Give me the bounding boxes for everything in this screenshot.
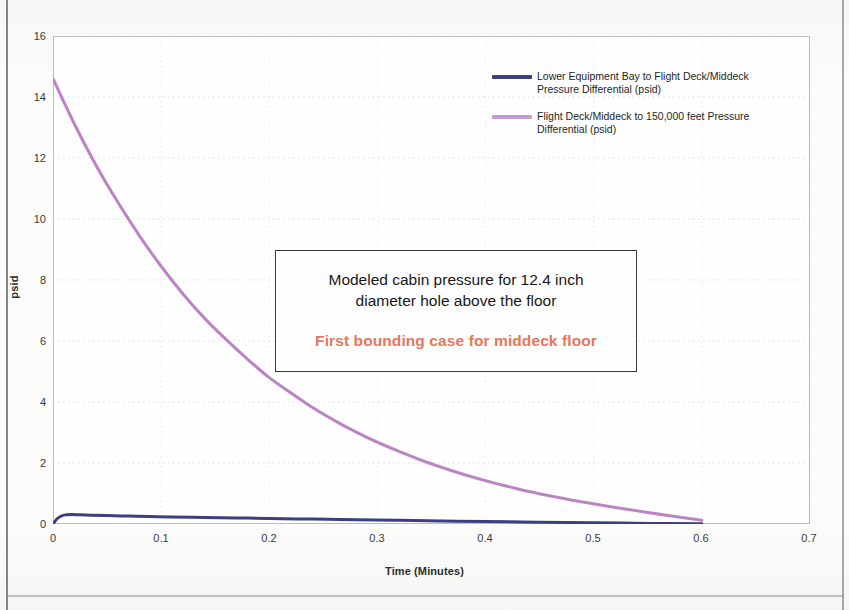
y-axis-title: psid <box>8 263 20 311</box>
x-axis-title: Time (Minutes) <box>0 565 849 577</box>
annotation-textbox: Modeled cabin pressure for 12.4 inch dia… <box>275 250 637 372</box>
legend-item-flightdeck-to-150000ft: Flight Deck/Middeck to 150,000 feet Pres… <box>492 110 792 136</box>
y-axis-tick-6: 6 <box>16 336 46 347</box>
y-axis-tick-12: 12 <box>16 153 46 164</box>
legend-swatch-navy <box>492 75 532 79</box>
x-axis-tick-0.3: 0.3 <box>357 533 397 544</box>
y-axis-tick-2: 2 <box>16 458 46 469</box>
legend-label-flightdeck-to-150000ft: Flight Deck/Middeck to 150,000 feet Pres… <box>537 110 787 136</box>
x-axis-tick-0.7: 0.7 <box>789 533 829 544</box>
series-line-lower-equipment-bay <box>53 515 702 524</box>
y-axis-tick-14: 14 <box>16 92 46 103</box>
x-axis-tick-0.6: 0.6 <box>681 533 721 544</box>
x-axis-tick-0.1: 0.1 <box>141 533 181 544</box>
scanned-page: 16 14 12 10 8 6 4 2 0 psid <box>0 0 849 610</box>
chart-legend: Lower Equipment Bay to Flight Deck/Midde… <box>492 70 792 150</box>
y-axis-tick-0: 0 <box>16 519 46 530</box>
legend-swatch-orchid <box>492 115 532 119</box>
y-axis-tick-8: 8 <box>16 275 46 286</box>
annotation-line-1: Modeled cabin pressure for 12.4 inch <box>328 269 583 290</box>
legend-label-lower-equipment-bay: Lower Equipment Bay to Flight Deck/Midde… <box>537 70 787 96</box>
annotation-line-2: diameter hole above the floor <box>356 290 557 311</box>
x-axis-tick-0.2: 0.2 <box>249 533 289 544</box>
y-axis-tick-4: 4 <box>16 397 46 408</box>
x-axis-tick-0: 0 <box>33 533 73 544</box>
y-axis-tick-10: 10 <box>16 214 46 225</box>
legend-item-lower-equipment-bay: Lower Equipment Bay to Flight Deck/Midde… <box>492 70 792 96</box>
y-axis-tick-16: 16 <box>16 31 46 42</box>
pressure-differential-chart: 16 14 12 10 8 6 4 2 0 psid <box>0 0 849 610</box>
x-axis-tick-0.5: 0.5 <box>573 533 613 544</box>
x-axis-tick-0.4: 0.4 <box>465 533 505 544</box>
annotation-highlight: First bounding case for middeck floor <box>315 332 597 350</box>
